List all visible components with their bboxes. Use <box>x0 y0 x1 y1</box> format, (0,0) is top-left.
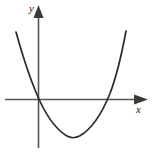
parabola-curve <box>16 31 126 138</box>
y-axis-arrow-icon <box>34 5 44 18</box>
graph-canvas <box>0 0 153 153</box>
x-axis-label: x <box>136 104 141 115</box>
parabola-figure: y x <box>0 0 153 153</box>
y-axis-label: y <box>29 3 34 14</box>
